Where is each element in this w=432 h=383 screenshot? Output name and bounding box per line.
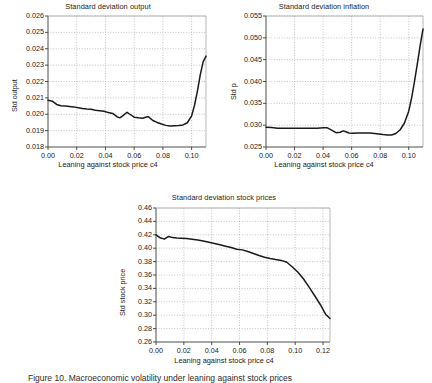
figure-caption: Figure 10. Macroeconomic volatility unde…	[28, 373, 418, 383]
plot-area	[0, 0, 216, 180]
figure-container: Standard deviation output Std output Lea…	[0, 0, 432, 383]
chart-panel-std-stock-prices: Standard deviation stock prices Std stoc…	[108, 190, 340, 370]
chart-panel-std-output: Standard deviation output Std output Lea…	[0, 0, 216, 180]
chart-panel-std-inflation: Standard deviation inflation Std p Leani…	[216, 0, 432, 180]
plot-area	[108, 190, 340, 370]
plot-area	[216, 0, 432, 180]
